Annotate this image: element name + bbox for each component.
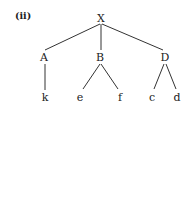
node-x: X [97,13,105,24]
edge-x-a [45,24,100,50]
edge-b-f [101,64,118,89]
edge-d-d [166,64,176,89]
edge-b-e [83,64,100,89]
node-d-leaf: d [173,92,180,103]
node-f: f [118,92,122,103]
edge-d-c [154,64,164,89]
node-c: c [149,92,155,103]
edge-x-d [102,24,163,50]
node-b: B [96,52,104,63]
tree-edges [0,0,187,208]
node-k: k [42,92,49,103]
node-d: D [161,52,170,63]
node-e: e [77,92,84,103]
node-a: A [40,52,48,63]
